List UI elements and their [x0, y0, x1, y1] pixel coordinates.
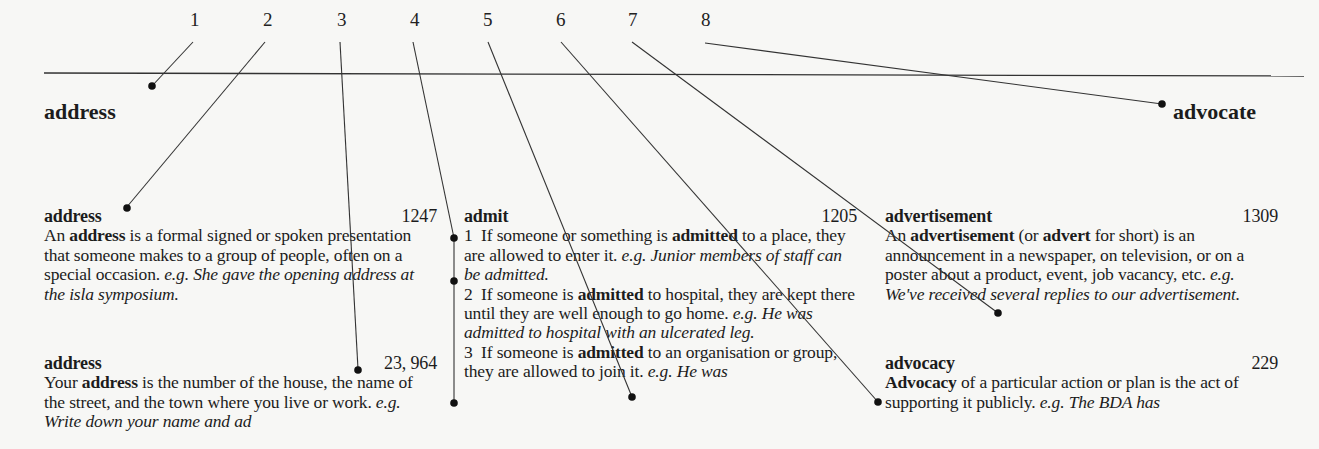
definition: An advertisement (or advert for short) i…	[885, 226, 1278, 304]
dot-sense-1	[450, 234, 458, 242]
example-sentence: He was	[677, 361, 728, 381]
example-sentence: The BDA has	[1069, 392, 1160, 412]
leader-line-8	[705, 43, 1162, 104]
frequency-count: 1205	[822, 207, 857, 226]
example-sentence: Write down your name and ad	[44, 411, 251, 431]
dot-bold-form	[628, 393, 636, 401]
leader-line-1	[152, 42, 193, 86]
dot-running-head	[148, 82, 156, 90]
definition: Advocacy of a particular action or plan …	[885, 373, 1278, 412]
callout-number-6: 6	[556, 10, 566, 30]
leader-line-3	[340, 42, 358, 369]
entry-address-1: address 1247 An address is a formal sign…	[44, 207, 437, 304]
headword: admit	[464, 207, 508, 226]
running-head-left: address	[44, 100, 116, 124]
headword: address	[44, 354, 102, 373]
frequency-count: 229	[1251, 354, 1278, 373]
example-sentence: We've received several replies to our ad…	[885, 284, 1240, 304]
headword: advocacy	[885, 354, 955, 373]
sense-1: 1 If someone or something is admitted to…	[464, 226, 857, 284]
dot-advocacy	[874, 398, 882, 406]
definition: An address is a formal signed or spoken …	[44, 226, 437, 304]
dot-sense-3	[450, 399, 458, 407]
callout-number-2: 2	[263, 10, 273, 30]
callout-number-5: 5	[483, 10, 493, 30]
sense-2: 2 If someone is admitted to hospital, th…	[464, 285, 857, 343]
running-head-right: advocate	[1173, 100, 1256, 124]
headword: advertisement	[885, 207, 992, 226]
sense-3: 3 If someone is admitted to an organisat…	[464, 343, 857, 382]
header-rule	[44, 73, 1304, 76]
callout-number-1: 1	[190, 10, 200, 30]
entry-address-2: address 23, 964 Your address is the numb…	[44, 354, 437, 432]
dot-sense-2	[450, 277, 458, 285]
dot-advocate	[1158, 100, 1166, 108]
frequency-count: 23, 964	[384, 354, 437, 373]
headword: address	[44, 207, 102, 226]
entry-advertisement: advertisement 1309 An advertisement (or …	[885, 207, 1278, 304]
dot-example	[994, 309, 1002, 317]
callout-number-4: 4	[410, 10, 420, 30]
frequency-count: 1247	[402, 207, 437, 226]
entry-admit: admit 1205 1 If someone or something is …	[464, 207, 857, 382]
frequency-count: 1309	[1243, 207, 1278, 226]
callout-number-8: 8	[701, 10, 711, 30]
callout-number-3: 3	[337, 10, 347, 30]
definition: Your address is the number of the house,…	[44, 373, 437, 431]
entry-advocacy: advocacy 229 Advocacy of a particular ac…	[885, 354, 1278, 412]
leader-line-2	[126, 42, 265, 208]
callout-number-7: 7	[628, 10, 638, 30]
